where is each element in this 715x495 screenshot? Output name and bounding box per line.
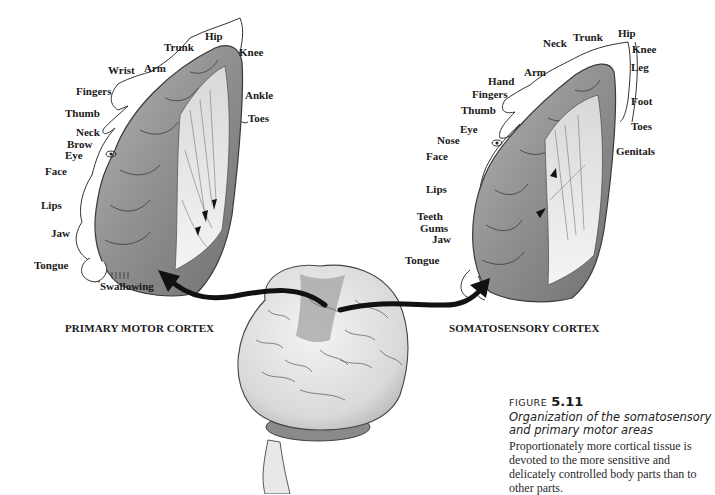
figure-title: Organization of the somatosensory and pr… — [509, 411, 715, 437]
figure-description: Proportionately more cortical tissue is … — [509, 439, 715, 495]
sensory-label-thumb: Thumb — [461, 104, 496, 116]
motor-label-knee: Knee — [239, 46, 263, 58]
motor-label-lips: Lips — [41, 199, 62, 211]
motor-label-trunk: Trunk — [164, 41, 194, 53]
sensory-label-teeth: Teeth — [417, 210, 443, 222]
sensory-label-arm: Arm — [524, 66, 546, 78]
motor-label-ankle: Ankle — [245, 89, 273, 101]
motor-label-fingers: Fingers — [76, 85, 111, 97]
sensory-label-leg: Leg — [631, 61, 649, 73]
sensory-label-face: Face — [426, 150, 448, 162]
sensory-label-jaw: Jaw — [432, 233, 451, 245]
motor-label-wrist: Wrist — [108, 64, 135, 76]
sensory-label-lips: Lips — [426, 183, 447, 195]
motor-label-jaw: Jaw — [51, 227, 70, 239]
motor-label-swallowing: Swallowing — [100, 280, 154, 292]
motor-label-thumb: Thumb — [65, 107, 100, 119]
figure-caption: FIGURE 5.11 Organization of the somatose… — [509, 392, 715, 495]
motor-label-toes: Toes — [248, 112, 269, 124]
motor-label-eye: Eye — [65, 149, 83, 161]
motor-label-face: Face — [45, 165, 67, 177]
motor-label-hip: Hip — [205, 30, 223, 42]
motor-label-tongue: Tongue — [34, 259, 68, 271]
sensory-label-hand: Hand — [488, 75, 514, 87]
sensory-label-genitals: Genitals — [616, 145, 655, 157]
sensory-label-hip: Hip — [618, 27, 636, 39]
motor-cortex-title: PRIMARY MOTOR CORTEX — [65, 322, 214, 334]
motor-label-neck: Neck — [76, 126, 100, 138]
figure-number: 5.11 — [551, 394, 583, 409]
sensory-label-tongue: Tongue — [405, 254, 439, 266]
sensory-label-toes: Toes — [631, 120, 652, 132]
figure-number-line: FIGURE 5.11 — [509, 392, 715, 410]
sensory-label-trunk: Trunk — [573, 31, 603, 43]
sensory-label-nose: Nose — [437, 134, 460, 146]
sensory-label-foot: Foot — [631, 95, 652, 107]
motor-cortex-illustration — [76, 18, 248, 296]
sensory-label-fingers: Fingers — [472, 88, 507, 100]
sensory-label-eye: Eye — [460, 123, 478, 135]
motor-label-arm: Arm — [144, 62, 166, 74]
figure-prefix: FIGURE — [509, 397, 547, 408]
sensory-label-knee: Knee — [632, 43, 656, 55]
sensory-cortex-title: SOMATOSENSORY CORTEX — [449, 322, 599, 334]
sensory-label-neck: Neck — [543, 37, 567, 49]
brain-lateral-view — [238, 265, 408, 494]
